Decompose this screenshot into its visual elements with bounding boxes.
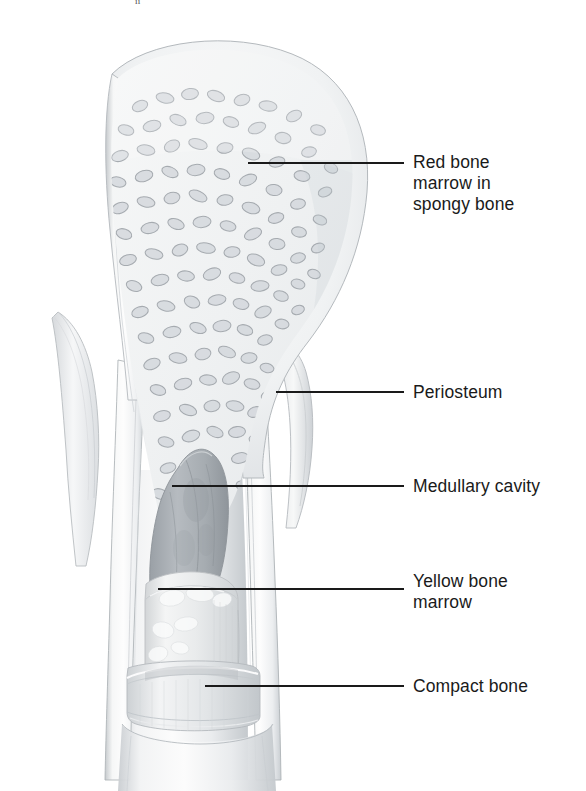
label-periosteum: Periosteum bbox=[413, 382, 503, 403]
label-medullary-cavity: Medullary cavity bbox=[413, 476, 540, 497]
compact-bone-ring bbox=[127, 661, 260, 731]
label-red-bone-marrow: Red bone marrow in spongy bone bbox=[413, 152, 514, 215]
periosteum-flap-left bbox=[52, 312, 99, 566]
bone-anatomy-figure: ii bbox=[0, 0, 586, 791]
label-compact-bone: Compact bone bbox=[413, 676, 528, 697]
label-yellow-bone-marrow: Yellow bone marrow bbox=[413, 571, 508, 613]
